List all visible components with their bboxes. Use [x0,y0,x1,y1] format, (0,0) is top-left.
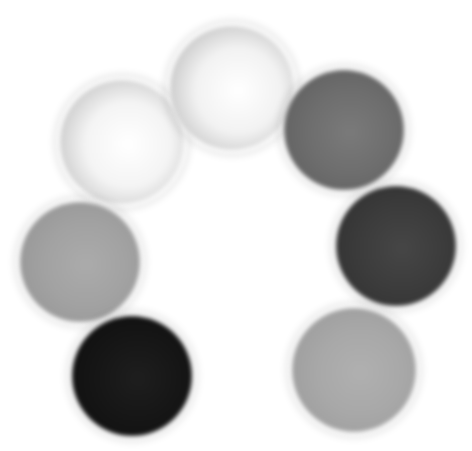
sphere-left-lower-black [72,316,192,436]
sphere-left-mid-gray [20,202,140,322]
sphere-right-mid-dark [336,186,456,306]
sphere-right-lower-gray [292,308,416,432]
sphere-top-white [170,26,294,150]
sphere-right-upper-gray [284,70,404,190]
sphere-left-upper-white [60,80,184,204]
sphere-arc-image [0,0,472,451]
